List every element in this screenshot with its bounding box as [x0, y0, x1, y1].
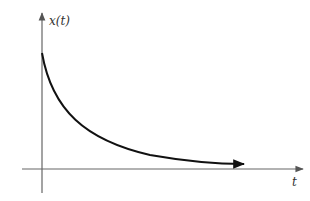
decay-plot: x(t) t [0, 0, 310, 201]
decay-curve [42, 53, 244, 164]
x-axis-label: t [292, 176, 297, 188]
y-axis-label: x(t) [49, 15, 70, 27]
plot-canvas [0, 0, 310, 201]
